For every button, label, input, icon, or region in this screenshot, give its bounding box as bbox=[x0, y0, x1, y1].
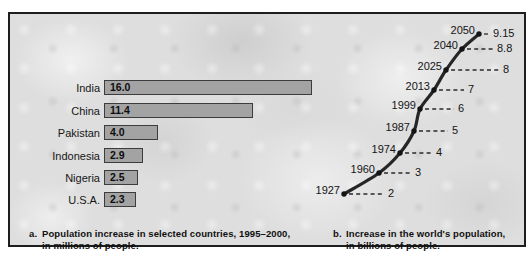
bar: 16.0 bbox=[104, 80, 312, 95]
year-label: 2025 bbox=[418, 60, 442, 73]
year-label: 1974 bbox=[372, 143, 396, 156]
bar-category-label: U.S.A. bbox=[18, 192, 100, 208]
caption-a-marker: a. bbox=[29, 228, 42, 251]
bar: 4.0 bbox=[104, 125, 158, 140]
year-label: 2013 bbox=[406, 80, 430, 93]
bar-row: China 11.4 bbox=[10, 103, 530, 119]
bar: 2.5 bbox=[104, 170, 138, 185]
bar-category-label: China bbox=[18, 103, 100, 119]
value-label: 6 bbox=[458, 102, 464, 115]
value-label: 8.8 bbox=[497, 42, 512, 55]
year-label: 2050 bbox=[451, 24, 475, 37]
page: India 16.0 China 11.4 Pakistan 4.0 Indon… bbox=[0, 0, 530, 261]
year-label: 1927 bbox=[316, 184, 340, 197]
bar: 2.3 bbox=[104, 192, 136, 207]
year-label: 1999 bbox=[392, 99, 416, 112]
bar-category-label: Nigeria bbox=[18, 170, 100, 186]
caption-b-marker: b. bbox=[333, 228, 346, 251]
year-label: 2040 bbox=[434, 39, 458, 52]
value-label: 8 bbox=[503, 63, 509, 76]
bar-category-label: Indonesia bbox=[18, 148, 100, 164]
year-label: 1960 bbox=[351, 163, 375, 176]
bar: 2.9 bbox=[104, 148, 143, 163]
bar-value-label: 2.3 bbox=[110, 193, 135, 206]
caption-b-text: Increase in the world's population,in bi… bbox=[346, 228, 505, 251]
caption-a-text: Population increase in selected countrie… bbox=[42, 228, 290, 251]
value-label: 2 bbox=[388, 187, 394, 200]
bar: 11.4 bbox=[104, 103, 253, 118]
bar-value-label: 16.0 bbox=[110, 81, 311, 94]
value-label: 5 bbox=[452, 124, 458, 137]
value-label: 3 bbox=[415, 166, 421, 179]
value-label: 4 bbox=[436, 146, 442, 159]
bar-category-label: India bbox=[18, 80, 100, 96]
bar-value-label: 2.9 bbox=[110, 149, 142, 162]
caption-a: a. Population increase in selected count… bbox=[29, 228, 329, 251]
bar-row: Nigeria 2.5 bbox=[10, 170, 530, 186]
bar-category-label: Pakistan bbox=[18, 125, 100, 141]
bar-row: Indonesia 2.9 bbox=[10, 148, 530, 164]
value-label: 7 bbox=[468, 83, 474, 96]
value-label: 9.15 bbox=[493, 27, 514, 40]
bar-value-label: 4.0 bbox=[110, 126, 157, 139]
bar-row: India 16.0 bbox=[10, 80, 530, 96]
caption-b: b. Increase in the world's population,in… bbox=[333, 228, 530, 251]
bar-value-label: 2.5 bbox=[110, 171, 137, 184]
bar-row: U.S.A. 2.3 bbox=[10, 192, 530, 208]
year-label: 1987 bbox=[386, 121, 410, 134]
bar-value-label: 11.4 bbox=[110, 104, 252, 117]
